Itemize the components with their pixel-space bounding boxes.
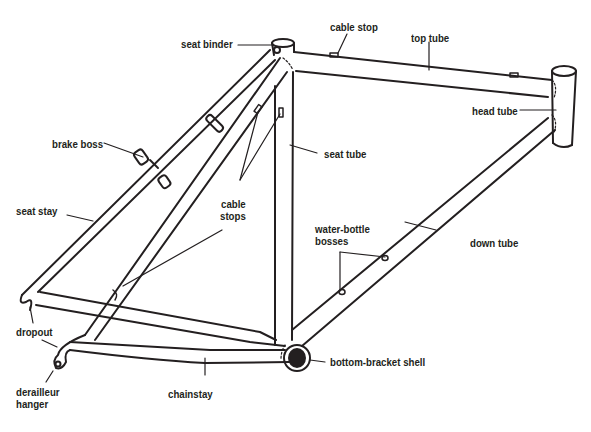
label-down-tube: down tube <box>470 237 518 249</box>
label-dropout: dropout <box>16 326 53 338</box>
label-bottom-bracket-shell: bottom-bracket shell <box>330 356 425 368</box>
seat-binder-bolt <box>274 47 280 53</box>
label-brake-boss: brake boss <box>52 138 103 150</box>
label-cable-stop: cable stop <box>330 21 378 33</box>
label-top-tube: top tube <box>411 32 449 44</box>
label-head-tube: head tube <box>472 105 518 117</box>
label-seat-binder: seat binder <box>181 38 233 50</box>
label-derailleur-line2: hanger <box>16 398 48 410</box>
label-derailleur-line1: derailleur <box>16 386 60 398</box>
label-chainstay: chainstay <box>168 388 213 400</box>
label-seat-stay: seat stay <box>16 205 57 217</box>
label-seat-tube: seat tube <box>324 148 367 160</box>
label-water-bottle-line2: bosses <box>315 235 348 247</box>
chainstay <box>36 292 290 363</box>
label-water-bottle-line1: water-bottle <box>315 223 370 235</box>
water-bottle-bosses <box>339 256 388 295</box>
bottom-bracket <box>281 345 310 371</box>
top-tube <box>294 52 552 97</box>
label-cable-stops-line1: cable <box>221 198 246 210</box>
bike-frame-diagram: seat binder cable stop top tube head tub… <box>0 0 591 432</box>
seat-tube <box>272 39 294 345</box>
cable-stops <box>113 53 518 300</box>
frame-drawing <box>0 0 591 432</box>
head-tube <box>552 66 576 147</box>
label-cable-stops-line2: stops <box>220 210 246 222</box>
